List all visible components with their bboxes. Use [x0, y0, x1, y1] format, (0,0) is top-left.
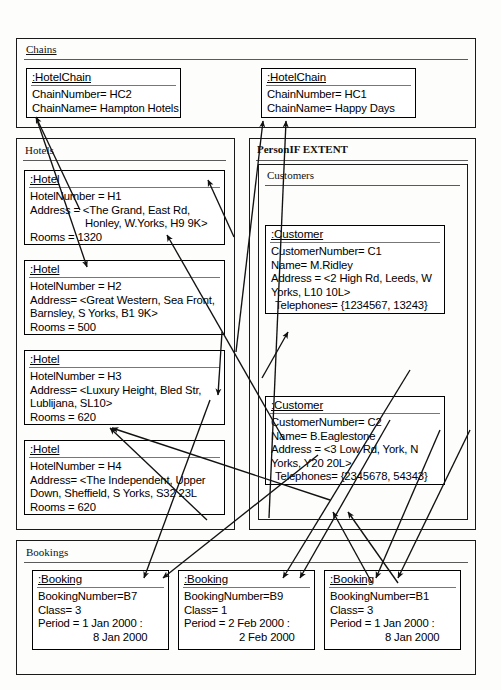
object-separator	[29, 457, 220, 458]
attribute-class: Class= 1	[184, 604, 311, 618]
object-separator	[37, 587, 164, 588]
attribute-rooms: Rooms = 500	[30, 321, 221, 335]
attribute-name: Name= M.Ridley	[271, 259, 441, 273]
attribute-telephones: Telephones= {1234567, 13243}	[271, 299, 441, 313]
object-hotel-h1[interactable]: :Hotel HotelNumber = H1 Address = <The G…	[24, 170, 225, 245]
object-hotel-h4[interactable]: :Hotel HotelNumber = H4 Address= <The In…	[24, 440, 225, 515]
attribute-bookingnumber: BookingNumber=B7	[38, 590, 165, 604]
attribute-bookingnumber: BookingNumber=B1	[330, 590, 457, 604]
object-attributes: HotelNumber = H1 Address = <The Grand, E…	[25, 189, 224, 246]
package-hotels-rule	[23, 160, 226, 161]
object-attributes: HotelNumber = H4 Address= <The Independe…	[25, 459, 224, 516]
attribute-rooms: Rooms = 620	[30, 411, 221, 425]
object-attributes: BookingNumber=B9 Class= 1 Period = 2 Feb…	[179, 589, 314, 646]
object-name: :Hotel	[25, 171, 224, 186]
attribute-address-line2: Barnsley, S Yorks, B1 9K>	[30, 307, 221, 321]
attribute-telephones: Telephones= {2345678, 54343}	[271, 470, 441, 484]
package-customers-rule	[265, 185, 460, 186]
attribute-address-line2: Yorks, Y20 20L>	[271, 457, 441, 471]
object-name: :Booking	[325, 571, 460, 586]
object-attributes: HotelNumber = H3 Address= <Luxury Height…	[25, 369, 224, 426]
object-customer-c2[interactable]: :Customer CustomerNumber= C2 Name= B.Eag…	[265, 396, 445, 485]
attribute-address-line2: Lublijana, SL10>	[30, 397, 221, 411]
object-name: :Hotel	[25, 441, 224, 456]
object-customer-c1[interactable]: :Customer CustomerNumber= C1 Name= M.Rid…	[265, 225, 445, 314]
object-name: :HotelChain	[262, 69, 415, 84]
attribute-address-line1: Address = <3 Low Rd, York, N	[271, 443, 441, 457]
attribute-customernumber: CustomerNumber= C1	[271, 245, 441, 259]
package-personif-extent-rule	[256, 160, 468, 161]
object-name: :Hotel	[25, 351, 224, 366]
object-hotelchain-hc2[interactable]: :HotelChain ChainNumber= HC2 ChainName= …	[26, 68, 181, 118]
object-attributes: BookingNumber=B1 Class= 3 Period = 1 Jan…	[325, 589, 460, 646]
object-separator	[270, 242, 440, 243]
object-attributes: BookingNumber=B7 Class= 3 Period = 1 Jan…	[33, 589, 168, 646]
object-attributes: ChainNumber= HC2 ChainName= Hampton Hote…	[27, 87, 180, 117]
attribute-period-end: 8 Jan 2000	[330, 631, 457, 645]
object-name: :Booking	[33, 571, 168, 586]
attribute-address-line2: Honley, W.Yorks, H9 9K>	[30, 217, 221, 231]
object-name: :Customer	[266, 397, 444, 412]
package-bookings-rule	[24, 562, 468, 563]
object-separator	[266, 85, 411, 86]
object-separator	[29, 367, 220, 368]
attribute-address-line2: Yorks, L10 10L>	[271, 286, 441, 300]
object-name: :Hotel	[25, 261, 224, 276]
object-booking-b9[interactable]: :Booking BookingNumber=B9 Class= 1 Perio…	[178, 570, 315, 650]
attribute-period-start: Period = 1 Jan 2000 :	[38, 617, 165, 631]
object-hotel-h3[interactable]: :Hotel HotelNumber = H3 Address= <Luxury…	[24, 350, 225, 425]
package-chains-rule	[24, 59, 468, 60]
package-chains-title: Chains	[26, 43, 57, 55]
object-hotel-h2[interactable]: :Hotel HotelNumber = H2 Address= <Great …	[24, 260, 225, 335]
object-name: :Booking	[179, 571, 314, 586]
attribute-address-line1: Address= <Great Western, Sea Front,	[30, 294, 221, 308]
object-attributes: HotelNumber = H2 Address= <Great Western…	[25, 279, 224, 336]
attribute-chainname: ChainName= Happy Days	[267, 102, 412, 116]
attribute-rooms: Rooms = 620	[30, 501, 221, 515]
attribute-period-end: 2 Feb 2000	[184, 631, 311, 645]
attribute-chainname: ChainName= Hampton Hotels	[32, 102, 177, 116]
attribute-address-line2: Down, Sheffield, S Yorks, S32 23L	[30, 487, 221, 501]
attribute-chainnumber: ChainNumber= HC2	[32, 88, 177, 102]
object-separator	[29, 187, 220, 188]
object-booking-b1[interactable]: :Booking BookingNumber=B1 Class= 3 Perio…	[324, 570, 461, 650]
attribute-class: Class= 3	[330, 604, 457, 618]
object-attributes: CustomerNumber= C2 Name= B.Eaglestone Ad…	[266, 415, 444, 486]
attribute-hotelnumber: HotelNumber = H1	[30, 190, 221, 204]
attribute-rooms: Rooms = 1320	[30, 231, 221, 245]
attribute-period-start: Period = 2 Feb 2000 :	[184, 617, 311, 631]
uml-object-diagram: Chains :HotelChain ChainNumber= HC2 Chai…	[0, 0, 501, 690]
package-customers-title: Customers	[267, 169, 314, 181]
attribute-hotelnumber: HotelNumber = H3	[30, 370, 221, 384]
attribute-customernumber: CustomerNumber= C2	[271, 416, 441, 430]
object-attributes: ChainNumber= HC1 ChainName= Happy Days	[262, 87, 415, 117]
object-separator	[329, 587, 456, 588]
attribute-address-line1: Address= <Luxury Height, Bled Str,	[30, 384, 221, 398]
attribute-chainnumber: ChainNumber= HC1	[267, 88, 412, 102]
object-attributes: CustomerNumber= C1 Name= M.Ridley Addres…	[266, 244, 444, 315]
object-separator	[31, 85, 176, 86]
attribute-address-line1: Address= <The Independent, Upper	[30, 474, 221, 488]
attribute-bookingnumber: BookingNumber=B9	[184, 590, 311, 604]
package-bookings-title: Bookings	[26, 546, 68, 558]
object-separator	[270, 413, 440, 414]
attribute-address-line1: Address = <The Grand, East Rd,	[30, 204, 221, 218]
attribute-hotelnumber: HotelNumber = H2	[30, 280, 221, 294]
attribute-period-end: 8 Jan 2000	[38, 631, 165, 645]
object-separator	[29, 277, 220, 278]
object-name: :Customer	[266, 226, 444, 241]
attribute-class: Class= 3	[38, 604, 165, 618]
attribute-hotelnumber: HotelNumber = H4	[30, 460, 221, 474]
attribute-period-start: Period = 1 Jan 2000 :	[330, 617, 457, 631]
package-hotels-title: Hotels	[25, 144, 54, 156]
package-personif-extent-title: PersonIF EXTENT	[257, 143, 348, 155]
object-name: :HotelChain	[27, 69, 180, 84]
object-separator	[183, 587, 310, 588]
attribute-address-line1: Address = <2 High Rd, Leeds, W	[271, 272, 441, 286]
object-booking-b7[interactable]: :Booking BookingNumber=B7 Class= 3 Perio…	[32, 570, 169, 650]
attribute-name: Name= B.Eaglestone	[271, 430, 441, 444]
object-hotelchain-hc1[interactable]: :HotelChain ChainNumber= HC1 ChainName= …	[261, 68, 416, 118]
